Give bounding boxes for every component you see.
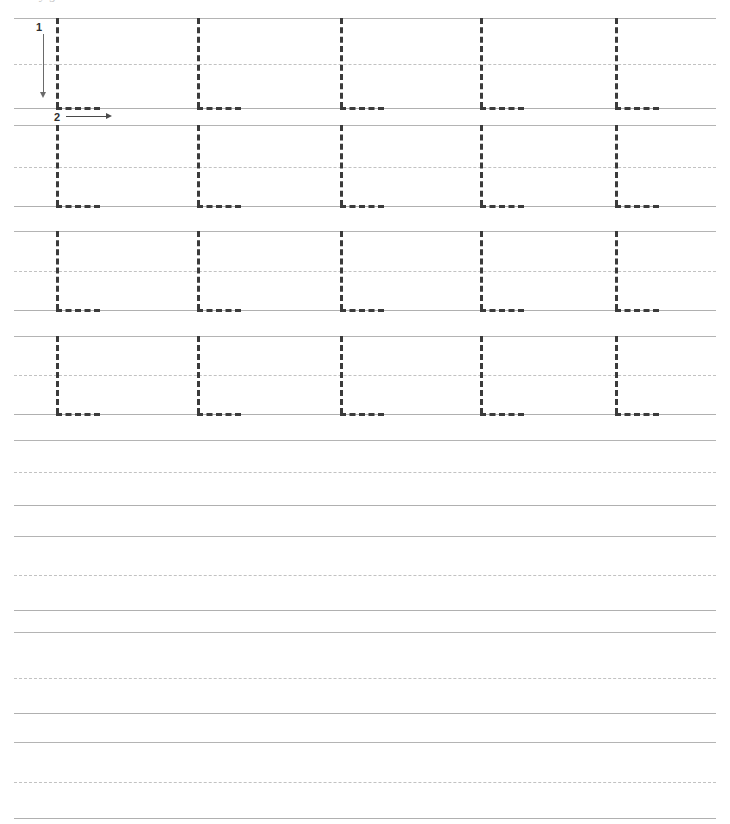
stroke-number-1: 1 [36, 22, 42, 33]
trace-letter[interactable]: L [56, 336, 116, 414]
letter-stroke-vertical [56, 18, 59, 108]
stroke-arrow-down-icon [39, 34, 48, 98]
letter-stroke-vertical [340, 336, 343, 414]
stroke-arrow-right-icon [66, 112, 112, 121]
trace-letter[interactable]: L [197, 18, 257, 108]
row-baseline [14, 610, 716, 611]
letter-stroke-vertical [340, 231, 343, 310]
trace-letter[interactable]: L [197, 336, 257, 414]
trace-letter[interactable]: L [56, 231, 116, 310]
letter-stroke-horizontal [56, 413, 100, 416]
letter-stroke-vertical [197, 125, 200, 206]
trace-letter[interactable]: L [197, 231, 257, 310]
letter-stroke-vertical [615, 336, 618, 414]
letter-stroke-horizontal [197, 205, 241, 208]
letter-stroke-vertical [480, 18, 483, 108]
letter-stroke-horizontal [340, 413, 384, 416]
trace-letter[interactable]: L [56, 18, 116, 108]
letter-stroke-vertical [197, 336, 200, 414]
trace-letter[interactable]: L [340, 125, 400, 206]
row-top-rule [14, 536, 716, 537]
trace-letter[interactable]: L [56, 125, 116, 206]
letter-stroke-horizontal [197, 413, 241, 416]
letter-stroke-vertical [480, 231, 483, 310]
trace-letter[interactable]: L [615, 231, 675, 310]
trace-letter[interactable]: L [480, 125, 540, 206]
letter-stroke-horizontal [56, 309, 100, 312]
arrow-shaft [66, 116, 106, 117]
letter-stroke-horizontal [340, 107, 384, 110]
letter-stroke-vertical [56, 231, 59, 310]
letter-stroke-horizontal [56, 205, 100, 208]
trace-letter[interactable]: L [480, 18, 540, 108]
letter-stroke-vertical [615, 18, 618, 108]
trace-letter[interactable]: L [480, 336, 540, 414]
letter-stroke-vertical [480, 336, 483, 414]
row-baseline [14, 818, 716, 819]
letter-stroke-horizontal [340, 205, 384, 208]
letter-stroke-vertical [197, 18, 200, 108]
row-baseline [14, 713, 716, 714]
letter-stroke-vertical [197, 231, 200, 310]
row-baseline [14, 505, 716, 506]
arrow-shaft [43, 34, 44, 92]
letter-stroke-vertical [340, 18, 343, 108]
letter-stroke-horizontal [615, 107, 659, 110]
letter-stroke-horizontal [480, 413, 524, 416]
letter-stroke-horizontal [197, 107, 241, 110]
worksheet-page: y g LLLLL12LLLLLLLLLLLLLLL [0, 0, 730, 824]
row-midline-dashed [14, 678, 716, 679]
trace-letter[interactable]: L [340, 18, 400, 108]
letter-stroke-horizontal [615, 205, 659, 208]
row-midline-dashed [14, 782, 716, 783]
trace-letter[interactable]: L [615, 18, 675, 108]
trace-letter[interactable]: L [340, 336, 400, 414]
row-top-rule [14, 742, 716, 743]
letter-stroke-vertical [56, 336, 59, 414]
row-top-rule [14, 632, 716, 633]
trace-letter[interactable]: L [197, 125, 257, 206]
letter-stroke-horizontal [340, 309, 384, 312]
letter-stroke-horizontal [615, 413, 659, 416]
trace-letter[interactable]: L [340, 231, 400, 310]
letter-stroke-vertical [615, 231, 618, 310]
letter-stroke-horizontal [480, 107, 524, 110]
letter-stroke-horizontal [480, 309, 524, 312]
trace-letter[interactable]: L [615, 125, 675, 206]
letter-stroke-horizontal [197, 309, 241, 312]
letter-stroke-vertical [480, 125, 483, 206]
letter-stroke-vertical [56, 125, 59, 206]
trace-letter[interactable]: L [615, 336, 675, 414]
cropped-title-text: y g [0, 0, 57, 2]
letter-stroke-horizontal [480, 205, 524, 208]
letter-stroke-vertical [615, 125, 618, 206]
arrow-head [40, 92, 46, 98]
row-midline-dashed [14, 472, 716, 473]
row-midline-dashed [14, 575, 716, 576]
trace-letter[interactable]: L [480, 231, 540, 310]
arrow-head [106, 113, 112, 119]
cropped-title-remnant: y g [0, 0, 730, 3]
letter-stroke-horizontal [56, 107, 100, 110]
stroke-number-2: 2 [54, 112, 60, 123]
row-top-rule [14, 440, 716, 441]
letter-stroke-horizontal [615, 309, 659, 312]
letter-stroke-vertical [340, 125, 343, 206]
